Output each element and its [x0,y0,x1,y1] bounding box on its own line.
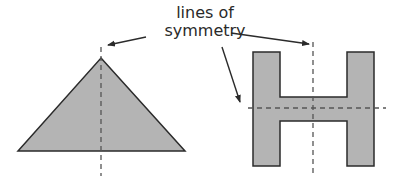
arrow-to-h-horizontal [222,47,240,102]
label-line-2: symmetry [150,22,260,40]
symmetry-diagram: lines of symmetry [0,0,397,190]
arrow-to-triangle [108,37,146,45]
label-line-1: lines of [150,4,260,22]
lines-of-symmetry-label: lines of symmetry [150,4,260,40]
